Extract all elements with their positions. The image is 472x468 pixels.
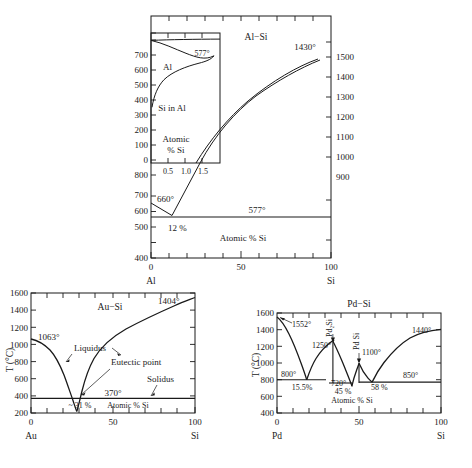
al-si-inset-xlabel-line2: % Si (167, 145, 185, 155)
au-si-ytick-200: 200 (15, 408, 29, 418)
pd-si-title: Pd−Si (347, 299, 371, 309)
pd-si-annot-45pct: 45 % (335, 387, 352, 396)
al-si-xtick-50: 50 (237, 262, 247, 272)
al-si-ytick-400: 400 (135, 253, 149, 263)
al-si-xaxis-ticks (151, 251, 331, 258)
pd-si-endpoint-left: Pd (272, 431, 282, 441)
al-si-title: Al−Si (245, 32, 268, 42)
au-si-xaxis-caption: Atomic % Si (107, 401, 149, 410)
al-si-inset-xlabel-line1: Atomic (163, 134, 190, 144)
pd-si-annot-58pct: 58 % (371, 383, 388, 392)
pd-si-annot-800: 800° (281, 370, 296, 379)
au-si-ytick-1200: 1200 (10, 323, 29, 333)
pd-si-endpoint-right: Si (437, 431, 445, 441)
al-si-xtick-0: 0 (149, 262, 154, 272)
pd-si-xtick-50: 50 (355, 417, 365, 427)
al-si-inset-solvus-curve (152, 56, 214, 108)
panel-al-si: 400 500 600 700 800 0 100 200 300 400 50… (135, 16, 355, 286)
al-si-rtick-1300: 1300 (336, 92, 355, 102)
pd-si-annot-850: 850° (403, 371, 418, 380)
pd-si-ytick-400: 400 (261, 408, 275, 418)
al-si-inset-ytick-400: 400 (135, 95, 149, 105)
au-si-endpoint-right: Si (191, 431, 199, 441)
al-si-rtick-1100: 1100 (336, 132, 354, 142)
au-si-annot-solidus: Solidus (147, 374, 175, 384)
pd-si-xtick-100: 100 (434, 417, 448, 427)
panel-pd-si: 1600 1400 1200 1000 800 600 400 T (°C) (251, 299, 448, 441)
al-si-inset-solidus-curve (151, 39, 220, 40)
al-si-ytick-600: 600 (135, 206, 149, 216)
al-si-inset-xtick-1p5: 1.5 (198, 167, 208, 176)
pd-si-annot-1100: 1100° (362, 348, 381, 357)
al-si-left-axis-ticks (151, 33, 156, 258)
pd-si-ytick-1400: 1400 (256, 325, 275, 335)
al-si-inset-ytick-100: 100 (135, 140, 149, 150)
au-si-title: Au−Si (98, 302, 123, 312)
al-si-top-ticks (169, 16, 313, 21)
pd-si-annot-1440: 1440° (412, 326, 431, 335)
al-si-inset-ytick-300: 300 (135, 110, 149, 120)
al-si-inset-xtick-1p0: 1.0 (181, 167, 191, 176)
au-si-ytick-400: 400 (15, 391, 29, 401)
al-si-xtick-100: 100 (324, 262, 338, 272)
phase-diagram-figure: 400 500 600 700 800 0 100 200 300 400 50… (0, 0, 472, 468)
panel-au-si: 1600 1400 1200 1000 800 600 400 200 T (°… (5, 288, 202, 441)
pd-si-compound-label-pdsi: Pd Si (352, 332, 361, 350)
au-si-liquidus-si-branch (77, 298, 195, 412)
al-si-ytick-500: 500 (135, 222, 149, 232)
pd-si-ytick-800: 800 (261, 375, 275, 385)
au-si-xtick-100: 100 (188, 417, 202, 427)
al-si-annot-12pct: 12 % (168, 223, 187, 233)
au-si-annot-1063: 1063° (38, 332, 60, 342)
al-si-rtick-1400: 1400 (336, 72, 355, 82)
al-si-liquidus-al-side (151, 203, 172, 216)
pd-si-annot-1250: 1250° (312, 341, 331, 350)
pd-si-yaxis-title: T (°C) (251, 353, 262, 377)
al-si-annot-660: 660° (157, 194, 175, 204)
au-si-annot-370: 370° (104, 388, 122, 398)
al-si-inset-ytick-200: 200 (135, 125, 149, 135)
al-si-inset-ytick-600: 600 (135, 65, 149, 75)
au-si-ytick-1600: 1600 (10, 288, 29, 298)
pd-si-pdsi-arrowhead (357, 359, 361, 364)
al-si-rtick-1500: 1500 (336, 52, 355, 62)
al-si-xaxis-caption: Atomic % Si (220, 233, 267, 243)
al-si-inset-ytick-700: 700 (135, 50, 149, 60)
al-si-ytick-800: 800 (135, 170, 149, 180)
au-si-xtick-50: 50 (109, 417, 119, 427)
al-si-rtick-1000: 1000 (336, 152, 355, 162)
pd-si-xaxis-caption: Atomic % Si (331, 396, 373, 405)
au-si-yaxis-title: T (°C) (5, 348, 16, 372)
al-si-right-axis-ticks (326, 42, 331, 240)
au-si-ytick-800: 800 (15, 357, 29, 367)
al-si-inset-annot-577: 577° (194, 49, 209, 58)
pd-si-annot-15p5pct: 15.5% (292, 383, 313, 392)
al-si-inset: 0.5 1.0 1.5 577° Al Si in Al Atomic % Si (151, 33, 220, 176)
pd-si-ytick-1600: 1600 (256, 308, 275, 318)
al-si-ytick-700: 700 (135, 190, 149, 200)
pd-si-xtick-0: 0 (275, 417, 280, 427)
al-si-liquidus-si-side (172, 60, 320, 216)
pd-si-ytick-600: 600 (261, 392, 275, 402)
al-si-annot-1430: 1430° (294, 42, 316, 52)
pd-si-liquidus-e2-to-pdsi (352, 363, 359, 386)
au-si-endpoint-left: Au (25, 431, 37, 441)
au-si-annot-31pct: ~ 31 % (69, 401, 92, 410)
al-si-inset-xtick-0p5: 0.5 (163, 167, 173, 176)
al-si-endpoint-left: Al (146, 276, 156, 286)
au-si-annot-1404: 1404° (158, 296, 180, 306)
au-si-ytick-1400: 1400 (10, 305, 29, 315)
au-si-liquidus-leader-right (112, 348, 121, 355)
al-si-inset-ytick-0: 0 (144, 155, 149, 165)
pd-si-ytick-1200: 1200 (256, 342, 275, 352)
pd-si-liquidus-pdsi-to-e3 (359, 363, 372, 382)
al-si-endpoint-right: Si (327, 276, 335, 286)
au-si-annot-liquidus: Liquidus (74, 343, 106, 353)
al-si-inset-label-si-in-al: Si in Al (158, 103, 186, 113)
au-si-ytick-600: 600 (15, 374, 29, 384)
al-si-inset-label-al: Al (163, 62, 172, 72)
al-si-liquidus-upper-branch (196, 59, 318, 163)
al-si-rtick-900: 900 (336, 172, 350, 182)
al-si-annot-577: 577° (248, 205, 266, 215)
figure-svg: 400 500 600 700 800 0 100 200 300 400 50… (0, 0, 472, 468)
